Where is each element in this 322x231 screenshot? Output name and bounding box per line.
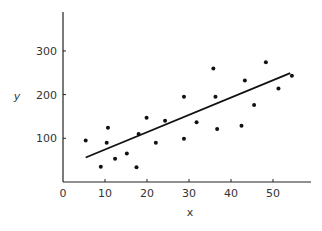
axes: [63, 12, 311, 182]
x-tick-label: 50: [266, 187, 280, 200]
data-point: [99, 165, 103, 169]
data-point: [84, 138, 88, 142]
x-axis-label: x: [187, 206, 194, 219]
data-point: [264, 60, 268, 64]
data-point: [145, 116, 149, 120]
y-axis-ticks: 100200300: [36, 45, 66, 145]
data-point: [182, 95, 186, 99]
scatter-chart: 01020304050 100200300 x y: [0, 0, 322, 231]
x-tick-label: 10: [98, 187, 112, 200]
y-tick-label: 100: [36, 132, 57, 145]
data-point: [113, 157, 117, 161]
x-tick-label: 0: [60, 187, 67, 200]
data-point: [125, 152, 129, 156]
data-point: [105, 141, 109, 145]
x-tick-label: 20: [140, 187, 154, 200]
y-tick-label: 300: [36, 45, 57, 58]
data-point: [213, 95, 217, 99]
regression-line: [86, 73, 291, 157]
y-axis-label: y: [13, 90, 21, 103]
y-tick-label: 200: [36, 89, 57, 102]
data-point: [276, 86, 280, 90]
fit-line-segment: [86, 73, 291, 157]
data-point: [215, 127, 219, 131]
data-point: [211, 66, 215, 70]
data-point: [252, 103, 256, 107]
data-point: [290, 74, 294, 78]
data-point: [195, 120, 199, 124]
x-tick-label: 30: [182, 187, 196, 200]
data-point: [106, 126, 110, 130]
data-point: [240, 124, 244, 128]
data-point: [182, 137, 186, 141]
data-point: [154, 141, 158, 145]
data-point: [163, 119, 167, 123]
data-point: [243, 79, 247, 83]
data-point: [137, 132, 141, 136]
data-point: [135, 165, 139, 169]
x-tick-label: 40: [224, 187, 238, 200]
